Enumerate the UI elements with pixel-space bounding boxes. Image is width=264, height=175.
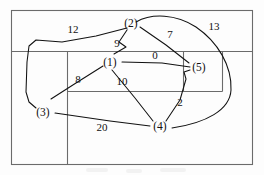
background-frame bbox=[12, 11, 253, 165]
edge-weight-0: 0 bbox=[152, 49, 158, 61]
edge-weight-12: 12 bbox=[68, 23, 79, 35]
node-label-1[interactable]: (1) bbox=[103, 56, 117, 69]
edge-weight-13: 13 bbox=[209, 20, 221, 32]
figure-root: (1) (2) (3) (4) (5) 0 2 7 8 9 10 12 13 2… bbox=[0, 0, 264, 175]
node-label-4[interactable]: (4) bbox=[153, 120, 167, 133]
scan-smudge-left bbox=[86, 168, 108, 172]
edge-1-5 bbox=[122, 62, 190, 67]
edge-weight-9: 9 bbox=[114, 37, 120, 49]
node-label-3[interactable]: (3) bbox=[36, 106, 50, 119]
node-label-5[interactable]: (5) bbox=[192, 61, 206, 74]
scan-smudge-center bbox=[126, 169, 142, 173]
outer-frame-rect bbox=[12, 11, 253, 165]
weighted-graph-figure: (1) (2) (3) (4) (5) 0 2 7 8 9 10 12 13 2… bbox=[0, 0, 264, 175]
edge-weight-10: 10 bbox=[117, 75, 129, 87]
edge-weight-8: 8 bbox=[75, 73, 81, 85]
edge-weight-7: 7 bbox=[167, 28, 173, 40]
edge-weight-20: 20 bbox=[97, 121, 109, 133]
node-label-2[interactable]: (2) bbox=[124, 17, 138, 30]
edge-2-3 bbox=[26, 28, 127, 108]
edge-2-5 bbox=[140, 27, 189, 63]
edge-weight-2: 2 bbox=[177, 96, 183, 108]
scan-smudge-right bbox=[160, 168, 186, 172]
